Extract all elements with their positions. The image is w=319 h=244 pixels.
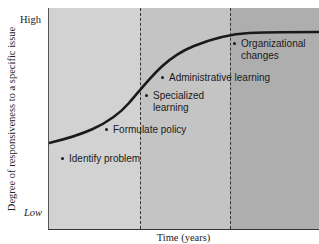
annotation-specialized-learning: Specialized learning [145, 90, 204, 114]
plot-area: Identify problem Formulate policy Specia… [48, 8, 319, 230]
bullet-icon [105, 128, 108, 131]
bullet-icon [145, 94, 148, 97]
bullet-icon [61, 157, 64, 160]
x-axis-label: Time (years) [48, 232, 319, 243]
y-axis-label: Degree of responsiveness to a specific i… [2, 8, 20, 230]
annotation-organizational-changes: Organizational changes [233, 38, 305, 62]
y-tick-low: Low [24, 207, 42, 218]
y-tick-high: High [20, 14, 41, 25]
annotation-identify-problem: Identify problem [61, 153, 140, 165]
annotation-administrative-learning: Administrative learning [161, 72, 270, 84]
y-axis-label-text: Degree of responsiveness to a specific i… [6, 27, 17, 211]
bullet-icon [161, 76, 164, 79]
bullet-icon [233, 42, 236, 45]
annotation-formulate-policy: Formulate policy [105, 124, 186, 136]
